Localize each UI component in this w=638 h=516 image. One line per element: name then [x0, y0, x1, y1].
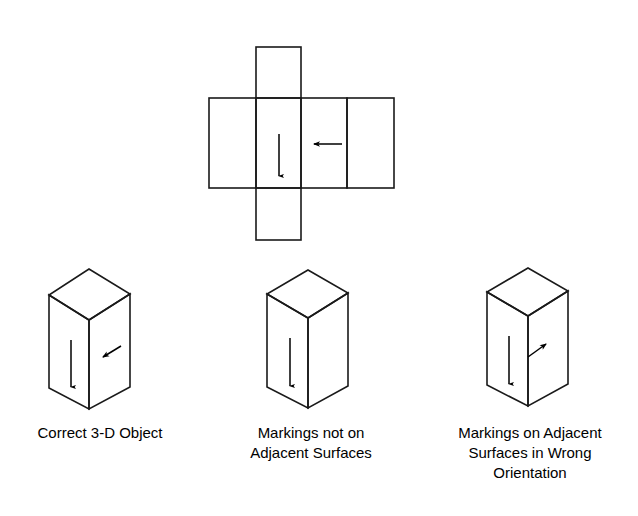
- caption-line: Surfaces in Wrong: [430, 443, 630, 463]
- markings-wrong-orientation-object: [487, 268, 568, 406]
- caption-line: Adjacent Surfaces: [216, 443, 406, 463]
- correct-3d-object: [49, 269, 130, 409]
- object2-right-face: [308, 293, 348, 408]
- object3-right-face: [528, 291, 568, 406]
- unfolded-cube-net: [209, 47, 394, 240]
- net-face-top-flap: [256, 47, 301, 98]
- net-markings: [279, 134, 342, 176]
- object3-top-face: [487, 268, 568, 316]
- net-face-bottom-flap: [256, 188, 301, 240]
- net-faces: [209, 47, 394, 240]
- markings-not-adjacent-object: [267, 270, 348, 408]
- caption-correct-3d-object: Correct 3-D Object: [0, 423, 200, 443]
- net-face-left: [209, 98, 256, 188]
- caption-line: Correct 3-D Object: [0, 423, 200, 443]
- object3-left-face: [487, 292, 528, 406]
- net-face-right: [301, 98, 347, 188]
- object1-left-face: [49, 295, 89, 409]
- object1-right-face: [89, 294, 130, 409]
- caption-line: Orientation: [430, 463, 630, 483]
- net-face-far-right: [347, 98, 394, 188]
- caption-markings-wrong-orientation: Markings on Adjacent Surfaces in Wrong O…: [430, 423, 630, 483]
- object2-left-face: [267, 294, 308, 408]
- caption-markings-not-adjacent: Markings not on Adjacent Surfaces: [216, 423, 406, 463]
- caption-line: Markings on Adjacent: [430, 423, 630, 443]
- object3-diagonal-arrow-icon: [528, 344, 546, 357]
- caption-line: Markings not on: [216, 423, 406, 443]
- object1-diagonal-arrow-icon: [103, 346, 121, 357]
- object2-top-face: [267, 270, 348, 318]
- object1-top-face: [49, 269, 130, 320]
